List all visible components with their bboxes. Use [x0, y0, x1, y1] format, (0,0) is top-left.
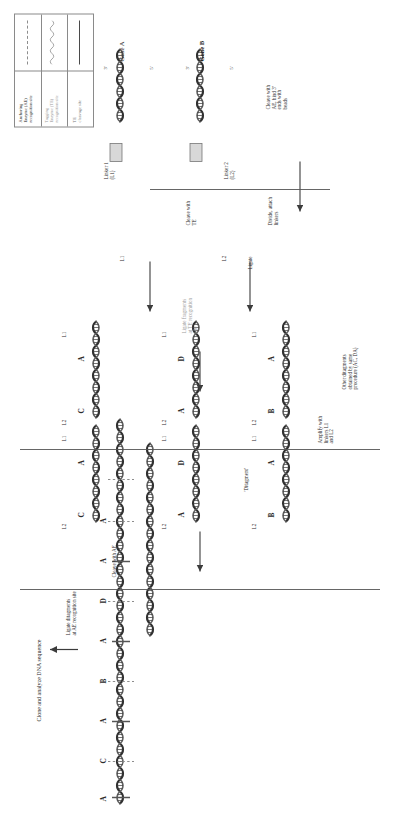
label-divide-attach: Divide, attachlinkers — [268, 196, 279, 225]
final-letter: D — [100, 598, 108, 603]
label-cleave-te: Cleave withTE — [186, 201, 197, 225]
final-letter: B — [100, 678, 108, 683]
label-gene-b: Gene B — [198, 40, 205, 61]
tag-letter: A — [78, 460, 86, 465]
tag-letter: A — [78, 356, 86, 361]
linker-tag: L2 — [62, 523, 68, 529]
tag-letter: A — [268, 356, 276, 361]
linker-tag: L2 — [162, 419, 168, 425]
linker-tag: L2 — [62, 419, 68, 425]
tag-letter: B — [268, 408, 276, 413]
linker-tag: L1 — [120, 255, 126, 261]
tag-letter: D — [178, 356, 186, 361]
final-letter: A — [100, 558, 108, 563]
label-gene-a: Gene A — [118, 41, 125, 61]
prime-mark-5: 5' — [150, 66, 155, 69]
linker-tag: L1 — [252, 331, 258, 337]
label-other-ditags: Other ditagmentsobtained by sameprocedur… — [342, 347, 359, 389]
tag-letter: D — [178, 460, 186, 465]
tag-letter: A — [178, 512, 186, 517]
label-linker2: Linker 2(L2) — [224, 162, 235, 179]
prime-mark-5: 5' — [230, 66, 235, 69]
tag-letter: B — [268, 512, 276, 517]
linker-tag: L2 — [252, 523, 258, 529]
linker-tag: L1 — [252, 435, 258, 441]
tag-letter: C — [78, 408, 86, 413]
linker-tag: L1 — [62, 331, 68, 337]
tag-letter: A — [178, 408, 186, 413]
final-letter: A — [100, 796, 108, 801]
linker-tag: L1 — [62, 435, 68, 441]
figure-canvas: Clone and analyze DNA sequence Ligate di… — [0, 0, 414, 821]
tag-letter: C — [78, 512, 86, 517]
legend-label-te-cleavage: TEcleavage site — [73, 74, 83, 122]
final-letter: A — [100, 518, 108, 523]
linker-tag: L2 — [162, 523, 168, 529]
legend-swatch-te-squiggle — [47, 20, 57, 64]
panel-concatemer — [147, 443, 153, 635]
prime-mark-3: 3' — [186, 66, 191, 69]
linker-tag: L2 — [222, 255, 228, 261]
legend-swatch-ae-dashed — [27, 20, 28, 64]
legend-box: AnchoringEnzyme (AE)recognition site Tag… — [14, 13, 94, 127]
linker-tag: L2 — [252, 419, 258, 425]
figure-rotated-container: Clone and analyze DNA sequence Ligate di… — [0, 0, 414, 821]
final-letter: C — [100, 758, 108, 763]
final-letter: A — [100, 718, 108, 723]
linker-tag: L1 — [162, 435, 168, 441]
legend-label-te: TaggingEnzyme (TE)recognition site — [45, 74, 60, 122]
label-ditagment: 'Ditagment' — [244, 468, 250, 491]
label-amplify: Amplify withlinkers L1and L2 — [318, 415, 335, 443]
label-clone-analyze: Clone and analyze DNA sequence — [36, 639, 43, 721]
label-cleave-ae-beads: Cleave withAE, bind 3'ends withbeads — [266, 85, 289, 109]
linker-tag: L1 — [162, 331, 168, 337]
label-linker1: Linker 1(L1) — [104, 162, 115, 179]
tag-letter: A — [268, 460, 276, 465]
final-letter: A — [100, 638, 108, 643]
label-ligate: Ligate — [248, 256, 254, 269]
prime-mark-3: 3' — [104, 66, 109, 69]
legend-swatch-te-cleavage-solid — [79, 20, 80, 64]
legend-label-ae: AnchoringEnzyme (AE)recognition site — [19, 74, 34, 122]
label-cleave-ae: Cleave with AE — [112, 545, 118, 577]
panel-final-sequence — [108, 419, 134, 803]
label-ligate-ditags: Ligate ditagmentsat AE recognition site — [66, 591, 77, 635]
label-ligate-te: Ligate fragmentsat TE recognitionsite — [182, 297, 199, 333]
